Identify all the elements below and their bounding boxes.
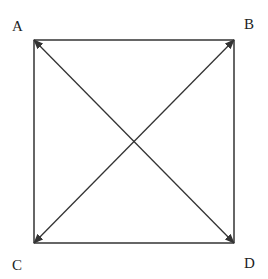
vertex-label-d: D bbox=[244, 255, 255, 271]
vertex-label-c: C bbox=[12, 257, 22, 273]
vertex-label-b: B bbox=[244, 16, 254, 32]
square-diagram: A B C D bbox=[0, 0, 268, 279]
vertex-label-a: A bbox=[12, 18, 23, 34]
